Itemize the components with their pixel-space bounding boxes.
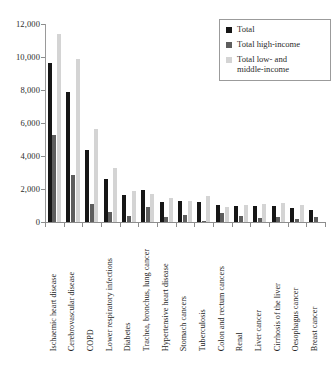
- x-tick-mark: [232, 223, 233, 227]
- dark-gray-square-icon: [226, 42, 232, 48]
- bar-group: [85, 24, 98, 222]
- bar: [262, 204, 266, 222]
- caption: [0, 366, 334, 379]
- x-axis-label-text: Hypertensive heart disease: [161, 263, 169, 351]
- bar: [206, 196, 210, 222]
- bar: [216, 205, 220, 222]
- bar: [253, 206, 257, 222]
- bar-group: [178, 24, 191, 222]
- x-axis-label-text: Stomach cancers: [180, 296, 188, 351]
- bar-group: [48, 24, 61, 222]
- x-tick-mark: [101, 223, 102, 227]
- bar: [169, 198, 173, 222]
- bar: [290, 208, 294, 222]
- x-axis-label-text: COPD: [87, 329, 95, 351]
- legend: Total Total high-income Total low- and m…: [219, 19, 331, 81]
- bar: [160, 202, 164, 222]
- legend-label-line2: middle-income: [237, 64, 289, 74]
- bar-chart: 12,000 10,000 8,000 6,000 4,000 2,000 0 …: [0, 0, 334, 379]
- bar: [197, 202, 201, 222]
- bar: [132, 191, 136, 222]
- bar: [141, 190, 145, 222]
- y-tick-label: 12,000: [0, 20, 40, 29]
- bar: [309, 210, 313, 222]
- x-tick-mark: [176, 223, 177, 227]
- x-axis-label-text: Renal: [236, 332, 244, 351]
- bar: [300, 205, 304, 222]
- bar: [225, 207, 229, 222]
- x-tick-mark: [120, 223, 121, 227]
- x-tick-mark: [82, 223, 83, 227]
- bar: [188, 201, 192, 222]
- x-axis-label-text: Lower respiratory infections: [105, 258, 113, 351]
- x-tick-mark: [138, 223, 139, 227]
- bar: [146, 207, 150, 222]
- x-tick-mark: [194, 223, 195, 227]
- bar: [150, 194, 154, 222]
- x-axis-label-text: Liver cancer: [255, 310, 263, 351]
- bar: [90, 204, 94, 222]
- y-axis: 12,000 10,000 8,000 6,000 4,000 2,000 0: [0, 0, 40, 379]
- bar: [234, 206, 238, 222]
- bar: [281, 203, 285, 222]
- bar-group: [104, 24, 117, 222]
- legend-item-total-high-income: Total high-income: [226, 40, 325, 50]
- bar: [220, 213, 224, 222]
- x-tick-mark: [325, 223, 326, 227]
- x-tick-mark: [306, 223, 307, 227]
- bar: [66, 92, 70, 222]
- bar-group: [122, 24, 135, 222]
- bar: [71, 175, 75, 222]
- bar-group: [160, 24, 173, 222]
- y-tick-label: 8,000: [0, 86, 40, 95]
- bar: [178, 201, 182, 222]
- x-tick-mark: [250, 223, 251, 227]
- x-axis-label-text: Diabetes: [124, 322, 132, 351]
- x-axis-label-text: Ischaemic heart disease: [49, 274, 57, 351]
- x-tick-mark: [213, 223, 214, 227]
- x-axis-label-text: Tuberculosis: [199, 309, 207, 351]
- x-tick-mark: [64, 223, 65, 227]
- y-tick-label: 0: [0, 218, 40, 227]
- light-gray-square-icon: [226, 57, 232, 63]
- x-tick-mark: [288, 223, 289, 227]
- x-axis-line: [43, 222, 326, 223]
- legend-label: Total: [237, 25, 255, 35]
- bar: [108, 212, 112, 222]
- y-tick-label: 6,000: [0, 119, 40, 128]
- x-axis-label-text: Trachea, bronchus, lung cancer: [143, 249, 151, 351]
- bar: [244, 205, 248, 222]
- x-axis-label-text: Cirrhosis of the liver: [273, 283, 281, 351]
- bar: [183, 215, 187, 222]
- x-axis-label-text: Oesophagus cancer: [292, 288, 300, 351]
- bar: [57, 34, 61, 222]
- x-tick-mark: [45, 223, 46, 227]
- x-tick-mark: [269, 223, 270, 227]
- legend-label-line1: Total low- and: [237, 54, 287, 64]
- black-square-icon: [226, 27, 232, 33]
- bar: [104, 179, 108, 222]
- y-tick-label: 2,000: [0, 185, 40, 194]
- bar-group: [66, 24, 79, 222]
- x-axis-label-text: Colon and rectum cancers: [217, 266, 225, 351]
- x-axis-label-text: Cerebrovascular disease: [68, 272, 76, 351]
- y-tick-label: 4,000: [0, 152, 40, 161]
- bar-group: [197, 24, 210, 222]
- y-tick-label: 10,000: [0, 53, 40, 62]
- x-axis-label-text: Breast cancer: [311, 307, 319, 351]
- bar: [48, 63, 52, 222]
- x-tick-mark: [157, 223, 158, 227]
- bar: [76, 59, 80, 222]
- bar-group: [141, 24, 154, 222]
- legend-label: Total high-income: [237, 40, 300, 50]
- bar: [122, 195, 126, 222]
- bar: [113, 168, 117, 222]
- bar: [94, 129, 98, 222]
- bar: [272, 206, 276, 222]
- legend-item-total-low-and-middle-income: Total low- and middle-income: [226, 55, 325, 75]
- bar: [52, 135, 56, 222]
- legend-item-total: Total: [226, 25, 325, 35]
- bar: [85, 150, 89, 222]
